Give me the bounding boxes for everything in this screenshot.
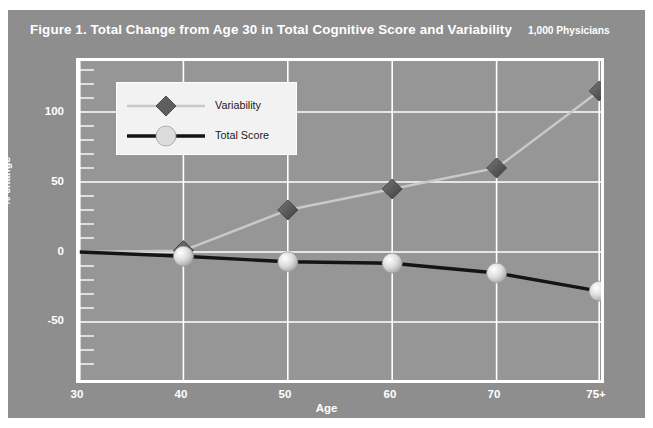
y-axis-minor-ticks bbox=[79, 70, 94, 364]
chart-legend: Variability Total Score bbox=[116, 82, 297, 155]
diamond-marker-icon bbox=[156, 96, 176, 116]
plot-frame: Variability Total Score bbox=[76, 58, 604, 383]
data-point-variability-50 bbox=[278, 200, 298, 220]
y-axis-tick-label-0: 0 bbox=[20, 245, 64, 257]
figure-title: Figure 1. Total Change from Age 30 in To… bbox=[30, 22, 512, 37]
y-axis-tick-label-50: 50 bbox=[20, 175, 64, 187]
legend-item-total-score: Total Score bbox=[117, 121, 296, 151]
legend-label-variability: Variability bbox=[215, 99, 261, 111]
figure-panel: Figure 1. Total Change from Age 30 in To… bbox=[8, 10, 645, 418]
x-axis-title: Age bbox=[8, 402, 645, 414]
data-point-total-score-60 bbox=[382, 253, 402, 273]
legend-item-variability: Variability bbox=[117, 91, 296, 121]
data-point-variability-70 bbox=[487, 158, 507, 178]
circle-marker-icon bbox=[156, 126, 176, 146]
series-markers-total-score bbox=[173, 246, 601, 301]
x-axis-tick-label-75plus: 75+ bbox=[571, 388, 621, 400]
x-axis-tick-label-50: 50 bbox=[260, 388, 310, 400]
x-axis-tick-label-70: 70 bbox=[469, 388, 519, 400]
y-axis-tick-label-100: 100 bbox=[20, 105, 64, 117]
x-axis-tick-label-40: 40 bbox=[156, 388, 206, 400]
data-point-total-score-70 bbox=[487, 263, 507, 283]
x-axis-tick-label-60: 60 bbox=[365, 388, 415, 400]
legend-label-total-score: Total Score bbox=[215, 129, 269, 141]
data-point-total-score-75plus bbox=[589, 281, 601, 301]
series-line-total-score bbox=[80, 252, 599, 291]
data-point-total-score-40 bbox=[173, 246, 193, 266]
y-axis-tick-label-neg50: -50 bbox=[20, 314, 64, 326]
figure-subtitle: 1,000 Physicians bbox=[528, 25, 610, 36]
data-point-total-score-50 bbox=[278, 252, 298, 272]
x-axis-tick-label-30: 30 bbox=[52, 388, 102, 400]
legend-swatch-variability bbox=[125, 91, 207, 121]
title-bar: Figure 1. Total Change from Age 30 in To… bbox=[8, 10, 645, 52]
legend-swatch-total-score bbox=[125, 121, 207, 151]
y-axis-title: % change bbox=[0, 157, 12, 206]
